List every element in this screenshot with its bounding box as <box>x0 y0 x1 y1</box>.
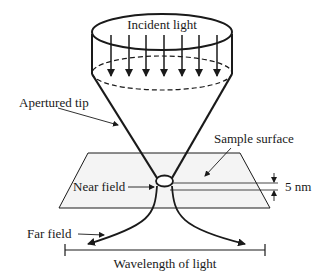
thickness-label: 5 nm <box>285 179 311 194</box>
dashed-ellipse <box>92 56 232 90</box>
apertured-tip-leader <box>58 108 118 125</box>
wavelength-bar <box>65 244 265 256</box>
apertured-tip-label: Apertured tip <box>19 95 89 110</box>
far-field-leader <box>78 234 104 235</box>
incident-light-label: Incident light <box>127 17 197 32</box>
aperture <box>156 176 173 187</box>
sample-surface-label: Sample surface <box>214 131 294 146</box>
near-field-label: Near field <box>73 179 126 194</box>
wavelength-label: Wavelength of light <box>114 256 217 271</box>
nsom-diagram: Incident light Apertured tip Sample surf… <box>0 0 329 279</box>
far-field-label: Far field <box>27 226 72 241</box>
